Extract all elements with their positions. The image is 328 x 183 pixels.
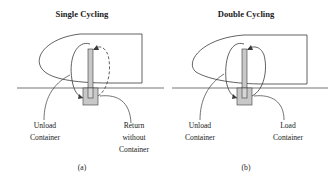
boom-inner	[88, 88, 93, 98]
label-line: Container	[262, 132, 314, 144]
label-unload-container: Unload Container	[174, 120, 226, 144]
label-load-container: Load Container	[262, 120, 314, 144]
label-return-without-container: Return without Container	[108, 120, 160, 156]
caption-a: (a)	[0, 163, 164, 172]
panel-double-cycling: Double Cycling Unload Container Load Con…	[164, 0, 328, 183]
label-line: Return	[108, 120, 160, 132]
leader-left	[200, 74, 224, 120]
caption-b: (b)	[164, 163, 328, 172]
label-line: Container	[174, 132, 226, 144]
label-line: Unload	[19, 120, 71, 132]
label-line: without	[108, 132, 160, 144]
label-line: Container	[19, 132, 71, 144]
double-cycling-diagram	[164, 0, 328, 183]
boom-inner	[242, 88, 247, 98]
ship-outline	[192, 35, 307, 84]
label-unload-container: Unload Container	[19, 120, 71, 144]
panel-single-cycling: Single Cycling Unload Container Return w…	[0, 0, 164, 183]
leader-right	[254, 96, 284, 120]
label-line: Container	[108, 144, 160, 156]
leader-right	[100, 96, 131, 123]
arrowhead-return	[93, 45, 99, 50]
label-line: Load	[262, 120, 314, 132]
label-line: Unload	[174, 120, 226, 132]
leader-left	[44, 75, 70, 120]
